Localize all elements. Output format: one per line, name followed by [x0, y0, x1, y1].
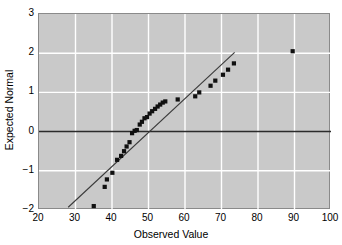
x-axis-title: Observed Value — [0, 228, 342, 240]
y-tick-0: 0 — [14, 125, 34, 136]
y-tick--1: −1 — [14, 164, 34, 175]
qq-reference-line — [68, 52, 234, 207]
y-tick-2: 2 — [14, 46, 34, 57]
y-tick-1: 1 — [14, 85, 34, 96]
data-points — [92, 61, 236, 208]
x-tick-70: 70 — [208, 212, 234, 223]
outlier-point — [291, 49, 295, 53]
x-tick-50: 50 — [135, 212, 161, 223]
x-tick-100: 100 — [317, 212, 342, 223]
y-axis-title: Expected Normal — [3, 50, 15, 170]
plot-area — [38, 13, 330, 209]
plot-canvas — [39, 14, 331, 210]
x-tick-40: 40 — [98, 212, 124, 223]
y-tick--2: −2 — [14, 203, 34, 214]
qq-plot-figure: 2030405060708090100 −2−10123 Observed Va… — [0, 0, 342, 245]
x-tick-30: 30 — [62, 212, 88, 223]
y-tick-3: 3 — [14, 7, 34, 18]
x-tick-80: 80 — [244, 212, 270, 223]
x-tick-60: 60 — [171, 212, 197, 223]
x-tick-90: 90 — [281, 212, 307, 223]
